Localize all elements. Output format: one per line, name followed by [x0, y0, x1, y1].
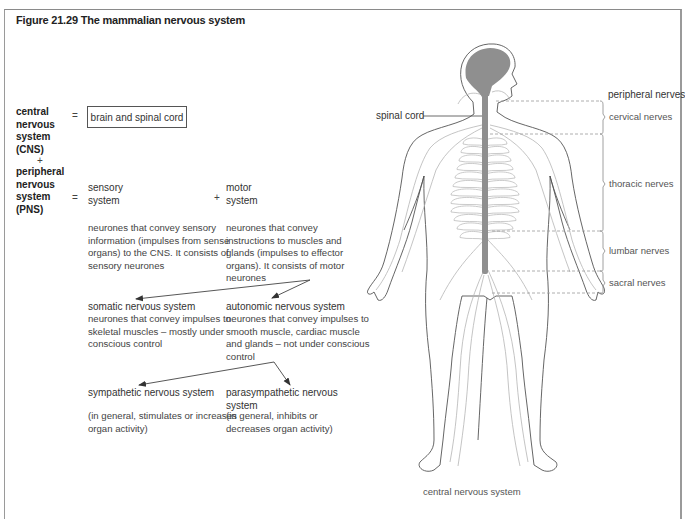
peripheral-nerves-header: peripheral nerves: [608, 89, 685, 100]
rib-nerve-r: [485, 189, 519, 197]
rib-nerve-l: [454, 214, 485, 222]
rib-nerve-l: [461, 146, 485, 154]
rib-nerve-l: [451, 197, 485, 205]
rib-nerve-l: [457, 223, 485, 231]
bracket-lumbar: [600, 231, 605, 271]
rib-nerve-r: [485, 155, 511, 163]
rib-nerve-r: [485, 214, 516, 222]
bracket-cervical: [600, 101, 605, 134]
rib-nerve-r: [485, 138, 507, 146]
nerve-lumbar-right: [488, 240, 532, 300]
nerve-group-label: cervical nerves: [609, 111, 672, 122]
nerve-right-leg: [488, 270, 528, 462]
rib-nerve-l: [455, 172, 485, 180]
arrow-to-parasympathetic: [274, 362, 290, 385]
nerve-group-label: lumbar nerves: [609, 245, 669, 256]
nerve-group-label: sacral nerves: [609, 277, 666, 288]
branch-arrows-motor: [136, 280, 310, 299]
nerve-region-bracket: [600, 101, 605, 293]
rib-nerve-r: [485, 180, 517, 188]
nerve-right-leg-2: [488, 275, 520, 466]
nerve-right-arm: [490, 125, 596, 290]
torso-outline-left: [367, 102, 474, 471]
arrow-to-autonomic: [272, 280, 310, 298]
rib-nerve-r: [485, 231, 510, 239]
rib-nerve-l: [453, 180, 485, 188]
arrow-to-somatic: [136, 280, 310, 299]
rib-nerve-r: [485, 206, 519, 214]
leg-inner: [478, 298, 487, 440]
nerve-left-arm: [376, 125, 482, 290]
rib-nerve-l: [457, 163, 485, 171]
nerve-left-leg: [450, 270, 484, 462]
nerve-left-arm-2: [402, 128, 482, 272]
nerve-lumbar-left: [440, 240, 484, 300]
rib-nerve-r: [485, 223, 513, 231]
arrow-to-sympathetic: [139, 362, 274, 385]
nerve-head-2: [492, 91, 510, 100]
cns-caption: central nervous system: [423, 486, 521, 497]
rib-nerve-l: [451, 206, 485, 214]
rib-nerve-l: [451, 189, 485, 197]
rib-nerve-r: [485, 172, 515, 180]
central-nervous-system-shape: [466, 48, 511, 274]
rib-nerve-l: [459, 155, 485, 163]
spinal-cord-label: spinal cord: [376, 110, 424, 121]
rib-nerve-l: [460, 231, 485, 239]
branch-arrows-autonomic: [139, 362, 290, 385]
rib-nerve-r: [485, 163, 513, 171]
brain-shape: [466, 48, 511, 97]
nerve-group-label: thoracic nerves: [609, 178, 673, 189]
rib-nerve-l: [463, 138, 485, 146]
bracket-thoracic: [600, 134, 605, 231]
arm-inner-left: [404, 176, 424, 230]
rib-nerve-r: [485, 146, 509, 154]
rib-nerve-r: [485, 197, 519, 205]
spinal-cord-shape: [482, 94, 488, 274]
